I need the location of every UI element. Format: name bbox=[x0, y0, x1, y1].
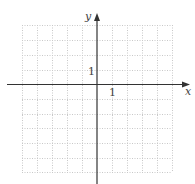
x-axis bbox=[7, 82, 190, 88]
y-tick-label: 1 bbox=[88, 65, 95, 78]
x-axis-label: x bbox=[185, 85, 192, 98]
y-axis-label: y bbox=[84, 10, 92, 23]
y-axis-arrow-icon bbox=[94, 13, 100, 21]
x-tick-label: 1 bbox=[109, 86, 116, 99]
coordinate-plane: x y 1 1 bbox=[0, 0, 195, 184]
